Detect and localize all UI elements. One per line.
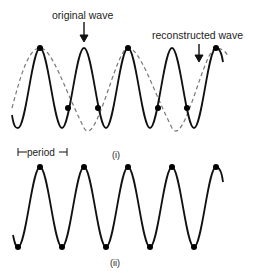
sampled-wave xyxy=(13,167,223,247)
reconstructed-wave xyxy=(12,48,228,131)
arrow-down-icon xyxy=(80,22,88,42)
reconstructed-wave-label: reconstructed wave xyxy=(152,29,243,41)
caption-i: (i) xyxy=(112,150,120,160)
original-wave-label: original wave xyxy=(52,9,113,21)
original-wave xyxy=(12,48,223,128)
caption-ii: (ii) xyxy=(110,258,120,268)
period-label: period xyxy=(27,147,55,158)
sampling-diagram: original wave reconstructed wave period … xyxy=(0,0,262,278)
arrow-down-icon xyxy=(195,44,203,62)
